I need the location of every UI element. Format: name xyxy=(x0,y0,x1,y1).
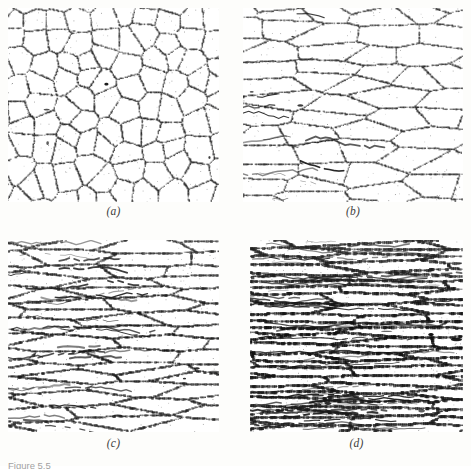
micrograph-panel-b xyxy=(243,8,463,202)
micrograph-canvas-d xyxy=(250,240,463,432)
panel-label-a: (a) xyxy=(8,205,219,217)
panel-label-d: (d) xyxy=(250,437,463,449)
micrograph-canvas-c xyxy=(8,240,219,432)
panel-label-c: (c) xyxy=(8,437,219,449)
micrograph-panel-a xyxy=(8,8,219,202)
micrograph-canvas-a xyxy=(8,8,219,202)
micrograph-panel-d xyxy=(250,240,463,432)
panel-label-b: (b) xyxy=(243,205,463,217)
figure-caption: Figure 5.5 xyxy=(8,460,51,469)
micrograph-canvas-b xyxy=(243,8,463,202)
micrograph-panel-c xyxy=(8,240,219,432)
